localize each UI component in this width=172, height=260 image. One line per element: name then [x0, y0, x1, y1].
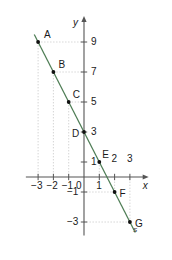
- x-tick-label-1: −2: [46, 181, 57, 191]
- y-tick-label-6: −3: [67, 217, 78, 227]
- x-tick-label-4: 1: [96, 181, 102, 191]
- y-tick-label-5: −1: [67, 187, 78, 197]
- y-tick-label-0: 9: [91, 37, 97, 47]
- point-label-d: D: [72, 129, 79, 139]
- x-tick-label-0: −3: [31, 181, 42, 191]
- graph-figure: ABCDEFG−3−2−1012397531−1−3xys: [0, 0, 172, 260]
- point-label-a: A: [44, 30, 51, 40]
- x-tick-label-6: 3: [127, 154, 133, 164]
- y-tick-label-1: 7: [91, 67, 97, 77]
- line-name-label: s: [133, 226, 137, 234]
- point-label-e: E: [102, 150, 109, 160]
- coordinate-plane-svg: [0, 0, 172, 260]
- x-axis-label: x: [143, 181, 148, 191]
- axes-group: [26, 16, 149, 236]
- x-tick-label-5: 2: [112, 154, 118, 164]
- y-tick-label-2: 5: [91, 97, 97, 107]
- point-label-c: C: [73, 90, 80, 100]
- point-label-b: B: [58, 60, 65, 70]
- y-tick-label-3: 3: [91, 127, 97, 137]
- y-axis-label: y: [73, 18, 78, 28]
- y-tick-label-4: 1: [91, 157, 97, 167]
- point-label-f: F: [120, 189, 126, 199]
